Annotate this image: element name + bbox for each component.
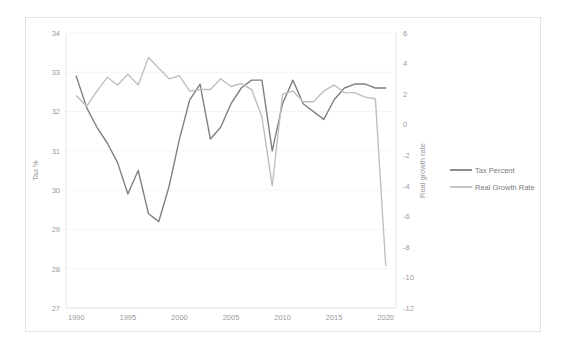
series-line-tax-percent [76, 76, 385, 221]
x-axis-tick-label: 2005 [223, 313, 240, 322]
y-axis-left-tick-label: 31 [52, 147, 60, 156]
y-axis-left-title: Tax % [31, 160, 40, 181]
y-axis-right-tick-label: -4 [403, 182, 410, 191]
y-axis-right-tick-label: -2 [403, 151, 410, 160]
series-line-real-growth-rate [76, 57, 385, 265]
chart-svg: 2728293031323334-12-10-8-6-4-20246199019… [0, 0, 565, 347]
y-axis-right-tick-label: -12 [403, 304, 414, 313]
y-axis-right-tick-label: -8 [403, 243, 410, 252]
x-axis-tick-label: 2000 [171, 313, 188, 322]
y-axis-left-tick-label: 33 [52, 68, 60, 77]
y-axis-right-title: Real growth rate [418, 143, 427, 198]
x-axis-tick-label: 1990 [68, 313, 85, 322]
y-axis-right-tick-label: -6 [403, 212, 410, 221]
y-axis-left-tick-label: 28 [52, 265, 60, 274]
x-axis-tick-label: 2020 [377, 313, 394, 322]
legend-label-real-growth-rate: Real Growth Rate [475, 183, 535, 192]
legend-label-tax-percent: Tax Percent [475, 166, 516, 175]
y-axis-left-tick-label: 32 [52, 107, 60, 116]
y-axis-right-tick-label: 6 [403, 29, 407, 38]
x-axis-tick-label: 2010 [274, 313, 291, 322]
y-axis-left-tick-label: 34 [52, 29, 60, 38]
y-axis-right-tick-label: 0 [403, 120, 407, 129]
y-axis-right-tick-label: -10 [403, 273, 414, 282]
y-axis-right-tick-label: 4 [403, 59, 407, 68]
line-chart: 2728293031323334-12-10-8-6-4-20246199019… [0, 0, 565, 347]
y-axis-left-tick-label: 30 [52, 186, 60, 195]
y-axis-left-tick-label: 29 [52, 225, 60, 234]
x-axis-tick-label: 1995 [120, 313, 137, 322]
y-axis-left-tick-label: 27 [52, 304, 60, 313]
x-axis-tick-label: 2015 [326, 313, 343, 322]
y-axis-right-tick-label: 2 [403, 90, 407, 99]
